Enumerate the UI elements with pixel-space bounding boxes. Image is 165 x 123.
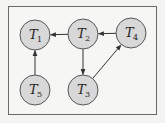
node-subscript: 2 (85, 34, 90, 43)
node-subscript: 1 (37, 35, 42, 44)
node-subscript: 4 (133, 33, 138, 42)
node-t5: T5 (20, 75, 50, 105)
node-subscript: 3 (85, 90, 90, 99)
node-t4: T4 (116, 18, 146, 48)
node-subscript: 5 (37, 90, 42, 99)
dependency-graph: T1T2T4T5T3 (0, 0, 165, 123)
node-t2: T2 (68, 19, 98, 49)
node-t1: T1 (20, 20, 50, 50)
node-t3: T3 (68, 75, 98, 105)
